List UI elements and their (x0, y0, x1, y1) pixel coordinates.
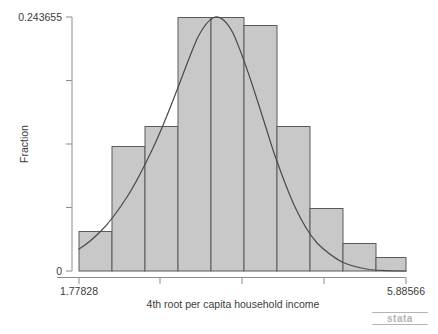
stata-graph-window: 0.243655 0 Fraction 1.77828 5.88566 4th … (0, 0, 438, 334)
stata-logo: stata (372, 312, 428, 325)
x-tick-label-max: 5.88566 (387, 285, 425, 297)
bar-5 (211, 18, 244, 272)
y-tick-label-max: 0.243655 (18, 11, 62, 23)
bar-1 (79, 232, 112, 272)
y-tick-label-min: 0 (56, 265, 62, 277)
bar-2 (112, 147, 145, 272)
bar-3 (145, 127, 178, 272)
x-tick-label-min: 1.77828 (60, 285, 98, 297)
bar-10 (376, 258, 406, 272)
bar-7 (277, 127, 310, 272)
stata-logo-text: stata (372, 312, 428, 325)
x-axis-title: 4th root per capita household income (147, 298, 320, 310)
bar-9 (343, 244, 376, 272)
y-axis-title: Fraction (18, 125, 30, 163)
bar-4 (178, 18, 211, 272)
histogram-chart: 0.243655 0 Fraction 1.77828 5.88566 4th … (0, 0, 438, 334)
